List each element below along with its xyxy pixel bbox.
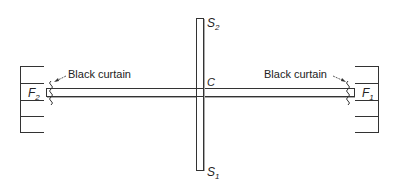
label-s2: S2 bbox=[207, 16, 220, 32]
label-f1: F1 bbox=[362, 86, 374, 102]
label-s1: S1 bbox=[207, 165, 219, 181]
right-pointer-arrow bbox=[333, 76, 346, 82]
label-c: C bbox=[207, 76, 215, 88]
apparatus-diagram: S2 S1 C F2 F1 Black curtain Black curtai… bbox=[0, 0, 395, 188]
left-pointer-arrow bbox=[54, 76, 66, 82]
label-f2: F2 bbox=[28, 86, 40, 102]
vertical-bar bbox=[196, 19, 205, 172]
label-curtain-left: Black curtain bbox=[68, 68, 131, 80]
label-curtain-right: Black curtain bbox=[264, 68, 327, 80]
